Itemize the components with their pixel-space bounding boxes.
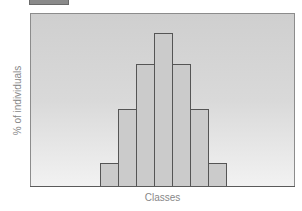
histogram-bar — [136, 64, 155, 186]
y-axis-label: % of individuals — [12, 61, 23, 141]
histogram-bar — [172, 64, 191, 186]
histogram-bar — [208, 163, 227, 186]
histogram-bar — [154, 33, 173, 186]
histogram-bars — [31, 14, 294, 186]
histogram-bar — [100, 163, 119, 186]
histogram-bar — [118, 109, 137, 186]
plot-area — [30, 13, 295, 186]
x-axis-line — [30, 186, 295, 187]
histogram-bar — [190, 109, 209, 186]
x-axis-label: Classes — [30, 192, 295, 203]
legend-swatch — [29, 0, 69, 5]
